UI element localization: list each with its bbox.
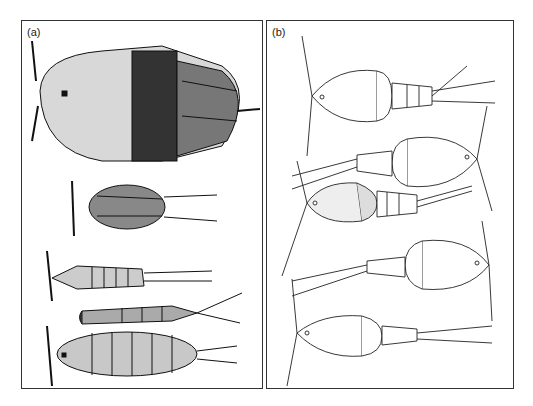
specimen-large xyxy=(32,41,260,161)
copepod-drawings-outline xyxy=(267,21,515,390)
specimen-1 xyxy=(302,36,495,156)
specimen-4 xyxy=(292,221,492,321)
panel-a: (a) xyxy=(21,20,263,389)
copepod-drawings-shaded xyxy=(22,21,264,390)
specimen-3 xyxy=(47,251,212,301)
panel-b: (b) xyxy=(266,20,514,389)
specimen-5 xyxy=(47,326,237,386)
specimen-4 xyxy=(80,293,243,324)
specimen-5 xyxy=(287,279,492,386)
specimen-2 xyxy=(72,181,217,236)
